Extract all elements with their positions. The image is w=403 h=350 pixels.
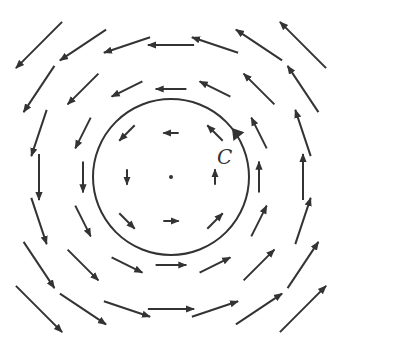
field-arrow-icon	[200, 257, 231, 272]
field-arrow-icon	[24, 242, 55, 288]
field-arrow-icon	[244, 250, 275, 281]
field-arrow-icon	[60, 30, 106, 61]
field-arrow-icon	[24, 66, 55, 112]
field-arrow-icon	[207, 125, 222, 140]
vector-field-diagram	[0, 0, 403, 350]
field-arrow-icon	[200, 81, 231, 96]
field-arrow-icon	[251, 118, 266, 149]
field-arrow-icon	[236, 294, 282, 325]
field-arrow-icon	[207, 213, 222, 228]
field-arrow-icon	[16, 22, 62, 68]
field-arrow-icon	[16, 286, 62, 332]
field-arrow-icon	[60, 294, 106, 325]
field-arrow-icon	[119, 213, 134, 228]
field-arrow-icon	[295, 198, 310, 244]
field-arrow-icon	[288, 242, 319, 288]
field-arrow-icon	[244, 74, 275, 105]
field-arrow-icon	[251, 206, 266, 237]
field-arrow-icon	[288, 66, 319, 112]
field-arrow-icon	[119, 125, 134, 140]
field-arrow-icon	[192, 37, 238, 52]
center-point	[169, 175, 173, 179]
field-arrow-icon	[236, 30, 282, 61]
field-arrow-icon	[295, 110, 310, 156]
field-arrow-icon	[104, 37, 150, 52]
field-arrow-icon	[112, 257, 143, 272]
field-arrow-icon	[192, 301, 238, 316]
field-arrow-icon	[112, 81, 143, 96]
field-arrow-icon	[75, 118, 90, 149]
field-arrow-icon	[75, 206, 90, 237]
field-arrow-icon	[31, 198, 46, 244]
field-arrow-icon	[68, 250, 99, 281]
field-arrow-icon	[31, 110, 46, 156]
field-arrow-icon	[280, 22, 326, 68]
field-arrow-icon	[104, 301, 150, 316]
field-arrow-icon	[280, 286, 326, 332]
field-arrow-icon	[68, 74, 99, 105]
curve-label: C	[217, 145, 232, 169]
